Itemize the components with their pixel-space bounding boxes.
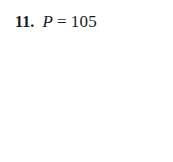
item-number-label: 11.: [15, 11, 34, 32]
variable-symbol: P: [42, 12, 53, 31]
equals-operator: =: [57, 12, 67, 31]
answer-page: 11. P=105: [0, 0, 173, 162]
math-expression: P=105: [42, 11, 97, 32]
answer-item-11: 11. P=105: [15, 11, 97, 32]
answer-value: 105: [71, 12, 97, 31]
